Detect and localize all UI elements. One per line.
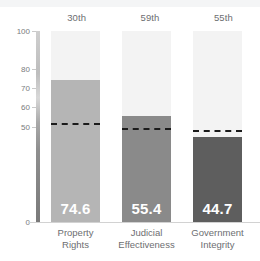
bar-value-label: 74.6 xyxy=(51,200,101,217)
category-label-line: Judicial xyxy=(111,227,182,239)
bar-value-label: 44.7 xyxy=(193,200,243,217)
rank-label: 30th xyxy=(40,10,113,26)
category-label: Property Rights xyxy=(40,227,111,250)
rank-label: 55th xyxy=(187,10,260,26)
y-axis-tick-label: 80 xyxy=(21,65,30,74)
category-label: Judicial Effectiveness xyxy=(111,227,182,250)
bar-column: 74.6 xyxy=(51,31,101,222)
category-label: Government Integrity xyxy=(182,227,253,250)
y-axis-tick-label: 100 xyxy=(17,27,30,36)
y-axis-tick-label: 60 xyxy=(21,103,30,112)
reference-line xyxy=(51,123,101,125)
bar-chart: 30th 59th 55th 100807060500 74.6 55.4 44… xyxy=(0,0,260,261)
category-label-line: Rights xyxy=(40,239,111,251)
x-axis-baseline xyxy=(28,222,260,223)
bar-value-label: 55.4 xyxy=(122,200,172,217)
reference-line xyxy=(193,130,243,132)
reference-line xyxy=(122,128,172,130)
y-axis-tick-label: 50 xyxy=(21,122,30,131)
rank-label-row: 30th 59th 55th xyxy=(40,10,260,26)
category-label-line: Property xyxy=(40,227,111,239)
bar-column: 55.4 xyxy=(122,31,172,222)
bar-column: 44.7 xyxy=(193,31,243,222)
category-label-line: Effectiveness xyxy=(111,239,182,251)
category-label-line: Integrity xyxy=(182,239,253,251)
y-axis-tick-label: 70 xyxy=(21,84,30,93)
rank-label: 59th xyxy=(113,10,186,26)
plot-area: 74.6 55.4 44.7 xyxy=(40,31,253,222)
category-label-row: Property Rights Judicial Effectiveness G… xyxy=(40,227,253,250)
category-label-line: Government xyxy=(182,227,253,239)
